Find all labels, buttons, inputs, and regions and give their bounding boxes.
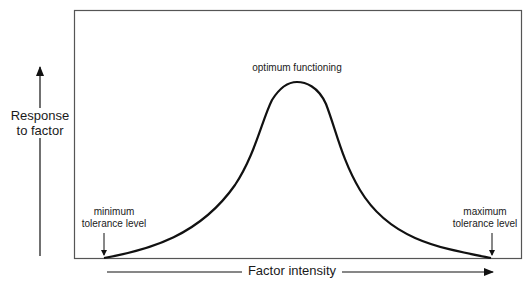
max-tolerance-label: maximum tolerance level: [440, 206, 530, 229]
tolerance-curve: [104, 82, 491, 258]
tolerance-diagram: optimum functioning minimum tolerance le…: [0, 0, 531, 291]
optimum-label: optimum functioning: [237, 62, 357, 74]
y-axis-label: Response to factor: [4, 109, 76, 139]
max-tolerance-line2: tolerance level: [440, 218, 530, 230]
y-axis-line2: to factor: [4, 124, 76, 139]
y-axis-line1: Response: [4, 109, 76, 124]
diagram-canvas: [0, 0, 531, 291]
max-tolerance-line1: maximum: [440, 206, 530, 218]
x-axis-label: Factor intensity: [242, 264, 342, 279]
min-tolerance-label: minimum tolerance level: [74, 206, 154, 229]
min-tolerance-line2: tolerance level: [74, 218, 154, 230]
min-tolerance-line1: minimum: [74, 206, 154, 218]
